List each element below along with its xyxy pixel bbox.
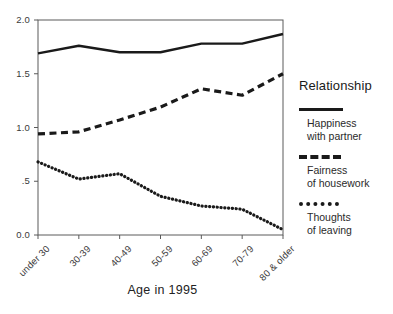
solid-line-icon — [299, 104, 343, 116]
legend-label-thoughts-line2: of leaving — [299, 224, 393, 237]
y-tick-label: .5 — [0, 175, 30, 186]
legend-entry-fairness: Fairness of housework — [299, 151, 393, 189]
x-axis-title: Age in 1995 — [60, 283, 265, 297]
legend-label-fairness-line1: Fairness — [299, 164, 393, 177]
legend-label-thoughts-line1: Thoughts — [299, 211, 393, 224]
dashed-line-icon — [299, 151, 343, 163]
data-series-group — [38, 34, 283, 230]
legend-label-happiness-line1: Happiness — [299, 117, 393, 130]
y-tick-label: 2.0 — [0, 14, 30, 25]
legend-label-happiness-line2: with partner — [299, 130, 393, 143]
series-line-dashed — [38, 74, 283, 134]
x-axis-ticks — [38, 235, 283, 239]
chart-figure: 0.0.51.01.52.0 under 3030-3940-4950-5960… — [0, 0, 393, 314]
y-tick-label: 1.5 — [0, 68, 30, 79]
chart-legend: Relationship Happiness with partner Fair… — [299, 78, 393, 245]
legend-entry-happiness: Happiness with partner — [299, 104, 393, 142]
legend-title: Relationship — [299, 78, 393, 93]
y-axis-ticks — [34, 20, 38, 235]
y-tick-label: 0.0 — [0, 229, 30, 240]
dotted-line-icon — [299, 198, 343, 210]
legend-label-fairness-line2: of housework — [299, 177, 393, 190]
series-line-solid — [38, 34, 283, 53]
legend-entry-thoughts: Thoughts of leaving — [299, 198, 393, 236]
y-tick-label: 1.0 — [0, 122, 30, 133]
series-line-dotted — [38, 162, 283, 230]
